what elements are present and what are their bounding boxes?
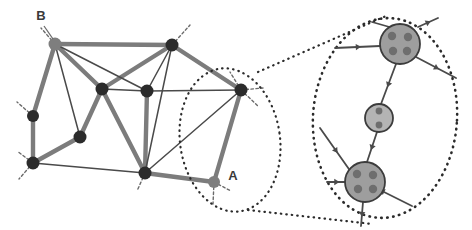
magnifier-connector-upper xyxy=(258,16,386,72)
graph-edge-thick xyxy=(102,89,145,173)
sub-node-detail-A-top-3[interactable] xyxy=(403,47,411,55)
sub-node-detail-A-top-2[interactable] xyxy=(389,47,397,55)
graph-edge-thick xyxy=(33,137,80,163)
graph-edge-thin xyxy=(33,163,145,173)
graph-node-n7[interactable] xyxy=(74,131,87,144)
graph-edge-thick xyxy=(55,44,172,45)
overview-thick-edges xyxy=(33,44,241,182)
sub-node-detail-A-top-0[interactable] xyxy=(388,32,396,40)
graph-node-n9[interactable] xyxy=(139,167,152,180)
sub-node-detail-A-bottom-3[interactable] xyxy=(369,185,377,193)
detail-node-detail-A-top[interactable] xyxy=(380,24,420,64)
sub-node-detail-A-bottom-2[interactable] xyxy=(354,185,362,193)
label-node-a: A xyxy=(228,168,238,183)
sub-node-detail-middle-1[interactable] xyxy=(376,122,383,129)
graph-magnification-figure: B A xyxy=(0,0,472,230)
graph-node-n2[interactable] xyxy=(166,39,179,52)
graph-edge-thick xyxy=(145,173,214,182)
detail-edge xyxy=(380,190,412,206)
graph-node-n4[interactable] xyxy=(141,85,154,98)
edge-arrowhead xyxy=(334,179,339,185)
graph-edge-thin xyxy=(147,90,241,91)
graph-edge-thin xyxy=(102,89,147,91)
detail-node-detail-A-bottom[interactable] xyxy=(345,162,385,202)
sub-node-detail-A-bottom-0[interactable] xyxy=(353,170,361,178)
detail-nodes[interactable] xyxy=(345,24,420,202)
graph-node-n3[interactable] xyxy=(96,83,109,96)
sub-node-detail-A-top-1[interactable] xyxy=(404,33,412,41)
graph-edge-thick xyxy=(102,45,172,89)
graph-node-n5[interactable] xyxy=(235,84,248,97)
figure-root: B A xyxy=(0,0,472,230)
sub-node-detail-middle-0[interactable] xyxy=(376,108,383,115)
graph-node-n8[interactable] xyxy=(27,157,40,170)
graph-edge-thick xyxy=(33,44,55,116)
graph-edge-thick xyxy=(80,89,102,137)
magnifier-connector-lower xyxy=(248,210,372,224)
graph-node-A[interactable] xyxy=(208,176,220,188)
edge-arrowhead xyxy=(356,44,361,50)
graph-edge-thick xyxy=(55,44,102,89)
graph-edge-thick xyxy=(145,91,147,173)
graph-node-n6[interactable] xyxy=(27,110,39,122)
graph-node-B[interactable] xyxy=(49,38,62,51)
graph-edge-thick xyxy=(172,45,241,90)
sub-node-detail-A-bottom-1[interactable] xyxy=(369,171,377,179)
label-node-b: B xyxy=(36,8,45,23)
